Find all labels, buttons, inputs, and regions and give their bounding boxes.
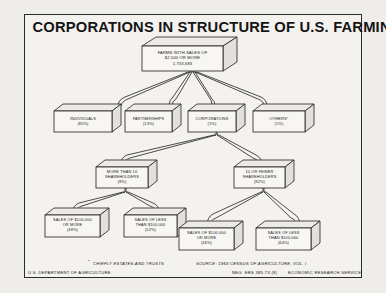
- agency-text: ECONOMIC RESEARCH SERVICE: [288, 270, 361, 275]
- box-mt10-sales-low-line3: (52%): [145, 227, 156, 232]
- box-ten-or-fewer-line3: (92%): [254, 179, 265, 184]
- box-root-line1: FARMS WITH SALES OF: [158, 50, 208, 55]
- box-root-line2: $2,500 OR MORE: [165, 55, 200, 60]
- box-tof-sales-low-label: SALES OF LESSTHAN $100,000(64%): [256, 230, 311, 245]
- source-text: SOURCE: 1969 CENSUS OF AGRICULTURE, VOL.…: [196, 261, 306, 266]
- box-corporations-label: CORPORATIONS(1%): [188, 116, 236, 126]
- box-mt10-sales-high-line3: (48%): [67, 227, 78, 232]
- box-mt10-sales-high-label: SALES OF $100,000OR MORE(48%): [45, 217, 100, 232]
- box-others-line2: (1%): [275, 121, 284, 126]
- neg-number-text: NEG. ERS 385-73 (8): [232, 270, 277, 275]
- diagram-artwork: [0, 0, 386, 293]
- box-tof-sales-high-line3: (36%): [201, 240, 212, 245]
- box-more-than-10-line3: (8%): [118, 179, 127, 184]
- poster-canvas: CORPORATIONS IN STRUCTURE OF U.S. FARMIN…: [0, 0, 386, 293]
- box-ten-or-fewer-label: 10 OR FEWERSHAREHOLDERS(92%): [234, 169, 285, 184]
- box-more-than-10-label: MORE THAN 10SHAREHOLDERS(8%): [96, 169, 148, 184]
- connector-ten-or-fewer-to-bottom: [207, 188, 300, 226]
- connector-root-to-level1: [118, 67, 267, 106]
- footnote-text: CHIEFLY ESTATES AND TRUSTS: [93, 261, 164, 266]
- box-mt10-sales-low-label: SALES OF LESSTHAN $100,000(52%): [124, 217, 177, 232]
- box-others-label: OTHERS*(1%): [253, 116, 305, 126]
- box-root-label: FARMS WITH SALES OF$2,500 OR MORE1,733,6…: [142, 50, 223, 66]
- box-root-line3: 1,733,683: [173, 61, 193, 66]
- box-partnerships-line2: (13%): [143, 121, 154, 126]
- box-individuals-line2: (85%): [77, 121, 88, 126]
- box-individuals-label: INDIVIDUALS(85%): [54, 116, 112, 126]
- box-tof-sales-low-line3: (64%): [278, 240, 289, 245]
- box-corporations-line2: (1%): [208, 121, 217, 126]
- box-partnerships-label: PARTNERSHIPS(13%): [125, 116, 172, 126]
- footnote-marker: *: [88, 259, 90, 264]
- department-text: U.S. DEPARTMENT OF AGRICULTURE: [28, 270, 111, 275]
- box-tof-sales-high-label: SALES OF $100,000OR MORE(36%): [179, 230, 234, 245]
